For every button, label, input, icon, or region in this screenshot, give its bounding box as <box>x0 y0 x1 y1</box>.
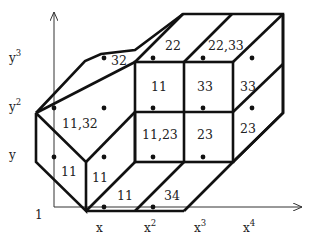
polytope-edges <box>36 14 283 211</box>
cell-right-side-lower: 23 <box>240 121 256 136</box>
cell-top-left-slant: 32 <box>111 53 127 68</box>
cell-bottom-right: 34 <box>164 188 180 203</box>
cell-bottom-left: 11 <box>117 188 133 203</box>
y-tick-1: y <box>8 148 16 162</box>
x-tick-4: x4 <box>243 218 255 235</box>
x-tick-2: x2 <box>144 218 156 235</box>
cell-top-mid: 22 <box>165 38 181 53</box>
x-tick-3: x3 <box>194 218 206 235</box>
cell-left-face: 11 <box>61 164 77 179</box>
cell-left-hex: 11,32 <box>62 116 98 131</box>
cell-top-right: 22,33 <box>208 38 244 53</box>
cell-front-upper-right: 33 <box>197 79 213 94</box>
cell-front-upper-left: 11 <box>151 79 167 94</box>
cell-front-lower-left: 11,23 <box>142 127 178 142</box>
cell-front-lower-right: 23 <box>197 127 213 142</box>
cell-left-inner-face: 11 <box>92 170 108 185</box>
y-tick-3: y3 <box>8 48 21 65</box>
cell-right-side-upper: 33 <box>240 79 256 94</box>
polytope-diagram: 1 x x2 x3 x4 y y2 y3 <box>0 0 311 241</box>
x-tick-1: x <box>96 221 103 235</box>
y-tick-2: y2 <box>8 97 21 114</box>
origin-label: 1 <box>35 208 43 222</box>
